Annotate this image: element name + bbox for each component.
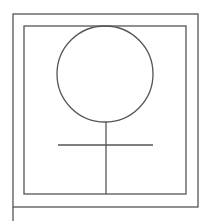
female-symbol-icon [57, 26, 153, 194]
symbol-circle [57, 26, 153, 122]
diagram-canvas [0, 0, 219, 221]
inner-frame [24, 26, 186, 194]
